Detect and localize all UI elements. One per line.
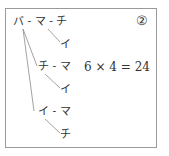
line-i-to-chi xyxy=(45,119,60,133)
problem-number-label: ② xyxy=(136,15,148,27)
tree-row-1-branch: イ xyxy=(60,39,71,51)
tree-row-2-branch: イ xyxy=(60,84,71,96)
tree-row-1: バ - マ - チ xyxy=(13,16,67,28)
tree-row-3-branch: チ xyxy=(60,129,71,141)
tree-row-2: チ - マ xyxy=(38,61,71,73)
equation: 6 × 4 = 24 xyxy=(84,61,150,73)
line-chi-to-i xyxy=(45,74,60,88)
line-root-to-i xyxy=(23,29,34,111)
line-ma-to-i xyxy=(48,29,60,42)
tree-row-3: イ - マ xyxy=(38,106,71,118)
